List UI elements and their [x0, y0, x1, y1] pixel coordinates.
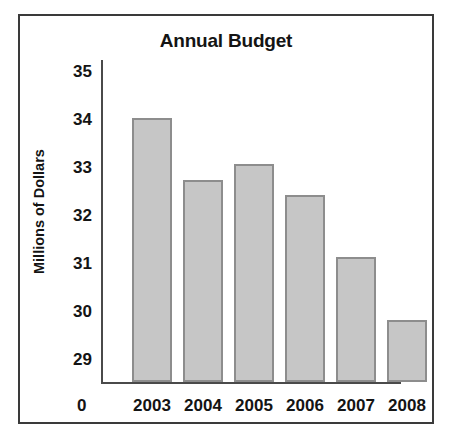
x-tick-label: 2008	[388, 396, 426, 416]
chart-title: Annual Budget	[20, 30, 432, 52]
x-tick-label: 2006	[286, 396, 324, 416]
axis-origin-label: 0	[77, 396, 86, 416]
bar	[132, 118, 172, 382]
y-tick-label: 33	[73, 158, 92, 178]
y-tick-label: 34	[73, 110, 92, 130]
x-axis-line	[101, 382, 401, 384]
x-tick-label: 2003	[133, 396, 171, 416]
bar	[234, 164, 274, 382]
bar	[183, 180, 223, 382]
bar	[336, 257, 376, 382]
y-tick-label: 31	[73, 254, 92, 274]
y-tick-label: 35	[73, 62, 92, 82]
x-tick-label: 2007	[337, 396, 375, 416]
plot-area: 0 29303132333435 20032004200520062007200…	[101, 60, 419, 414]
y-axis-title: Millions of Dollars	[31, 154, 47, 274]
y-tick-label: 29	[73, 350, 92, 370]
y-axis-line	[101, 60, 103, 384]
y-tick-label: 30	[73, 302, 92, 322]
bar	[387, 320, 427, 382]
bar	[285, 195, 325, 382]
y-tick-label: 32	[73, 206, 92, 226]
x-tick-label: 2005	[235, 396, 273, 416]
chart-frame: Annual Budget Millions of Dollars 0 2930…	[18, 14, 434, 424]
x-tick-label: 2004	[184, 396, 222, 416]
